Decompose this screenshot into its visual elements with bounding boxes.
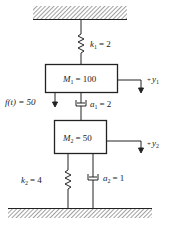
force-arrow <box>53 93 58 107</box>
displacement-y2-arrow <box>107 141 144 153</box>
displacement-y1-label: +y1 <box>147 74 159 85</box>
ground <box>8 209 152 219</box>
spring-k2-label: k2= 4 <box>21 175 42 186</box>
displacement-y2-label: +y2 <box>147 138 159 149</box>
mass-m1-label: M1= 100 <box>62 74 97 85</box>
spring-k1 <box>78 20 84 64</box>
spring-k1-label: k1= 2 <box>90 39 111 50</box>
mass-m2-label: M2= 50 <box>62 133 92 144</box>
damper-a2 <box>88 154 98 208</box>
damper-a1-label: a1= 2 <box>90 99 111 110</box>
damper-a1 <box>76 93 86 120</box>
displacement-y1-arrow <box>118 80 144 93</box>
damper-a2-label: a2= 1 <box>103 173 124 184</box>
mechanical-diagram: k1= 2 M1= 100 +y1 f(t) = 50 a1= 2 M2= 50… <box>0 0 173 229</box>
force-label: f(t) = 50 <box>5 97 36 107</box>
spring-k2 <box>65 154 71 208</box>
ceiling <box>33 6 127 20</box>
